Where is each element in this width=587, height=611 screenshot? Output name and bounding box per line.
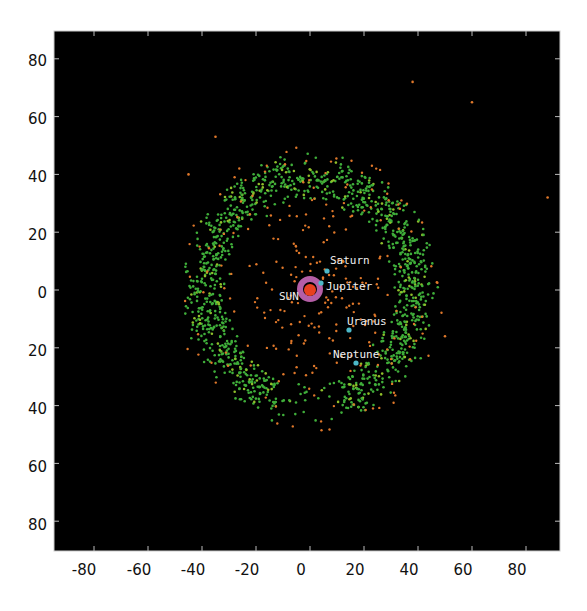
data-point	[216, 301, 219, 304]
data-point	[394, 380, 397, 383]
data-point	[219, 283, 222, 286]
y-tick-label: 80	[28, 52, 47, 70]
data-point	[244, 179, 246, 181]
data-point	[409, 358, 411, 360]
data-point	[221, 353, 224, 356]
data-point	[330, 418, 333, 421]
data-point	[205, 222, 208, 225]
data-point	[368, 185, 371, 188]
data-point	[224, 342, 227, 345]
data-point	[413, 282, 416, 285]
data-point	[410, 286, 413, 289]
data-point	[380, 214, 383, 217]
data-point	[361, 182, 364, 185]
data-point	[240, 367, 243, 370]
data-point	[355, 384, 358, 387]
data-point	[393, 286, 396, 289]
data-point	[350, 160, 352, 162]
data-point	[210, 249, 213, 252]
data-point	[381, 227, 384, 230]
data-point	[234, 397, 237, 400]
data-point	[242, 187, 245, 190]
data-point	[389, 208, 392, 211]
data-point	[326, 239, 328, 241]
data-point	[379, 169, 381, 171]
data-point	[408, 276, 411, 279]
data-point	[282, 414, 285, 417]
data-point	[349, 337, 351, 339]
data-point	[345, 407, 348, 410]
data-point	[288, 205, 290, 207]
data-point	[401, 258, 404, 261]
data-point	[375, 204, 378, 207]
data-point	[406, 203, 408, 205]
data-point	[248, 380, 251, 383]
data-point	[367, 363, 370, 366]
data-point	[416, 315, 419, 318]
data-point	[324, 302, 326, 304]
data-point	[191, 328, 194, 331]
data-point	[368, 197, 371, 200]
data-point	[262, 178, 265, 181]
data-point	[415, 340, 417, 342]
data-point	[254, 301, 256, 303]
data-point	[405, 220, 408, 223]
data-point	[223, 220, 226, 223]
data-point	[350, 186, 353, 189]
data-point	[399, 208, 401, 210]
data-point	[345, 175, 348, 178]
data-point	[406, 339, 409, 342]
data-point	[241, 212, 244, 215]
data-point	[322, 181, 325, 184]
data-point	[203, 333, 206, 336]
data-point	[215, 242, 218, 245]
data-point	[417, 256, 420, 259]
data-point	[424, 304, 427, 307]
planet-jupiter-marker	[318, 280, 323, 285]
data-point	[393, 359, 396, 362]
data-point	[211, 332, 214, 335]
data-point	[329, 383, 332, 386]
data-point	[397, 370, 400, 373]
data-point	[394, 394, 396, 396]
data-point	[413, 277, 416, 280]
data-point	[323, 217, 325, 219]
data-point	[215, 381, 217, 383]
data-point	[202, 291, 204, 293]
data-point	[370, 200, 373, 203]
data-point	[318, 325, 320, 327]
data-point	[236, 374, 239, 377]
label-uranus: Uranus	[347, 315, 387, 328]
data-point	[195, 319, 198, 322]
data-point	[418, 263, 421, 266]
x-tick-label: 60	[453, 561, 472, 579]
data-point	[261, 370, 264, 373]
data-point	[287, 170, 290, 173]
data-point	[340, 163, 343, 166]
data-point	[258, 386, 261, 389]
data-point	[244, 192, 247, 195]
data-point	[421, 285, 424, 288]
data-point	[422, 228, 425, 231]
data-point	[404, 253, 407, 256]
data-point	[401, 326, 404, 329]
data-point	[214, 136, 217, 139]
data-point	[366, 377, 369, 380]
data-point	[320, 311, 322, 313]
data-point	[411, 237, 414, 240]
data-point	[356, 387, 359, 390]
data-point	[229, 213, 232, 216]
data-point	[357, 206, 360, 209]
data-point	[393, 337, 395, 339]
data-point	[414, 252, 417, 255]
data-point	[255, 374, 258, 377]
data-point	[295, 147, 297, 149]
data-point	[222, 318, 225, 321]
data-point	[399, 311, 402, 314]
data-point	[353, 403, 355, 405]
data-point	[394, 305, 397, 308]
data-point	[412, 316, 415, 319]
data-point	[392, 208, 395, 211]
data-point	[406, 224, 409, 227]
data-point	[241, 216, 244, 219]
